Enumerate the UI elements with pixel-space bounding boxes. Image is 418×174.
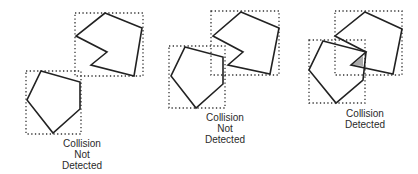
panel-3 <box>309 11 402 103</box>
overlap-region <box>352 56 363 66</box>
bounding-box <box>75 13 143 76</box>
caption-line: Detected <box>190 134 260 145</box>
panel-2 <box>169 11 279 108</box>
bounding-box <box>335 11 402 75</box>
caption-line: Collision <box>47 138 117 149</box>
bounding-box <box>211 11 279 75</box>
caption-line: Detected <box>330 119 400 130</box>
caption-panel-2: Collision Not Detected <box>190 112 260 145</box>
pentagon <box>27 71 80 133</box>
notched-polygon <box>335 12 402 74</box>
caption-line: Detected <box>47 160 117 171</box>
panel-1 <box>26 13 143 134</box>
caption-line: Not <box>47 149 117 160</box>
pentagon <box>309 41 366 103</box>
caption-panel-3: Collision Detected <box>330 108 400 130</box>
caption-line: Collision <box>190 112 260 123</box>
notched-polygon <box>76 13 142 76</box>
pentagon <box>171 47 223 108</box>
caption-panel-1: Collision Not Detected <box>47 138 117 171</box>
caption-line: Collision <box>330 108 400 119</box>
caption-line: Not <box>190 123 260 134</box>
